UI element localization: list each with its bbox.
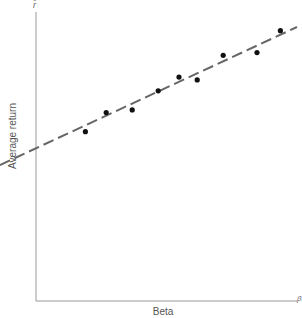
y-axis-label: Average return bbox=[7, 103, 18, 169]
data-point bbox=[195, 77, 200, 82]
data-point bbox=[104, 110, 109, 115]
data-point bbox=[221, 53, 226, 58]
x-axis-label: Beta bbox=[153, 306, 174, 317]
data-point bbox=[278, 28, 283, 33]
data-point bbox=[176, 75, 181, 80]
regression-line bbox=[0, 27, 297, 165]
data-point bbox=[156, 88, 161, 93]
chart-canvas bbox=[0, 0, 302, 318]
data-point bbox=[130, 107, 135, 112]
data-point bbox=[254, 50, 259, 55]
data-points bbox=[83, 28, 283, 134]
x-axis-symbol: β bbox=[297, 294, 302, 303]
y-axis-symbol: r̄ bbox=[33, 0, 36, 10]
data-point bbox=[83, 129, 88, 134]
